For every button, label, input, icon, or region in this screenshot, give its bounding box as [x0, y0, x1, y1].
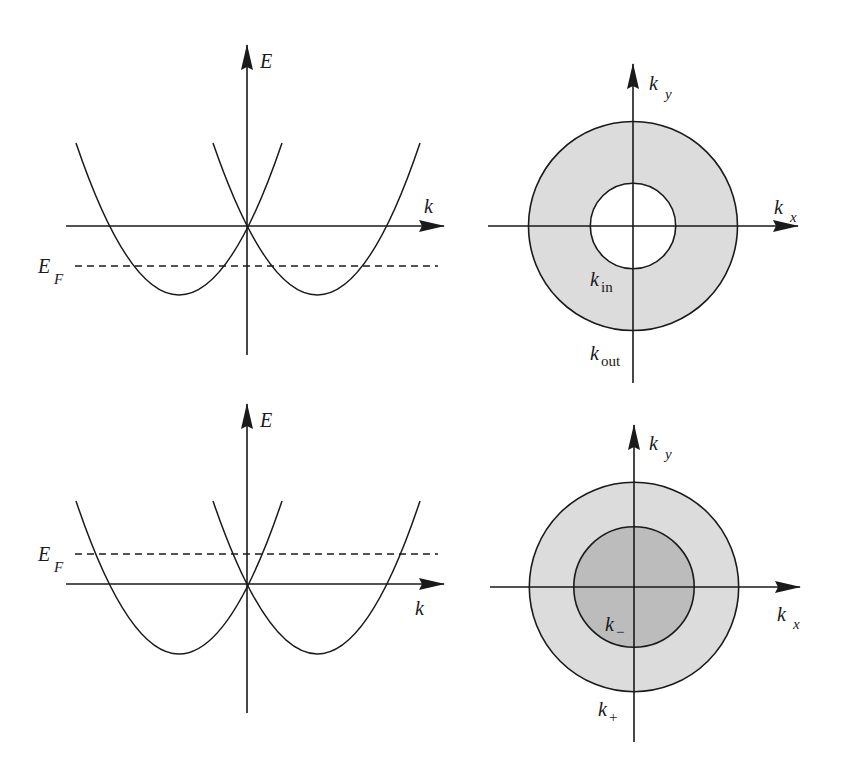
band-structure-figure: E k E F k y k x k in k out E k E F k	[0, 0, 846, 778]
fermi-level-label: E	[37, 543, 50, 565]
energy-axis-label: E	[259, 409, 272, 431]
k-in-label: k	[590, 268, 600, 290]
k-minus-label: k	[605, 613, 615, 635]
right-parabola-band	[213, 143, 420, 295]
kx-axis-subscript: x	[792, 616, 800, 632]
k-out-label: k	[590, 342, 600, 364]
ky-axis-subscript: y	[663, 446, 672, 462]
k-out-subscript: out	[601, 353, 621, 369]
k-plus-subscript: +	[609, 709, 617, 725]
fermi-level-subscript: F	[53, 271, 64, 287]
right-parabola-band	[213, 501, 420, 654]
panel-bottom-left-dispersion: E k E F	[37, 404, 444, 713]
left-parabola-band	[76, 501, 282, 654]
k-in-subscript: in	[601, 279, 613, 295]
k-axis-label: k	[415, 597, 425, 619]
left-parabola-band	[76, 143, 282, 295]
kx-axis-label: k	[777, 603, 787, 625]
fermi-level-subscript: F	[53, 559, 64, 575]
fermi-level-label: E	[37, 255, 50, 277]
ky-axis-label: k	[649, 72, 659, 94]
panel-top-right-fermi-surface: k y k x k in k out	[488, 64, 798, 383]
ky-axis-label: k	[649, 432, 659, 454]
energy-axis-label: E	[259, 50, 272, 72]
k-plus-label: k	[598, 698, 608, 720]
k-minus-subscript: −	[616, 624, 624, 640]
k-axis-label: k	[424, 195, 434, 217]
kx-axis-subscript: x	[789, 209, 797, 225]
kx-axis-label: k	[774, 196, 784, 218]
panel-top-left-dispersion: E k E F	[37, 45, 444, 355]
panel-bottom-right-fermi-surface: k y k x k − k +	[490, 425, 800, 742]
ky-axis-subscript: y	[663, 86, 672, 102]
